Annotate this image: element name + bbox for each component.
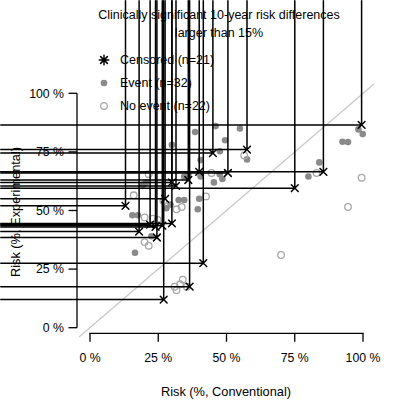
point-event [305,173,312,180]
point-no-event [345,204,352,211]
y-tick-label: 25 % [36,262,64,276]
point-censored [1,1,167,303]
x-tick-label: 75 % [281,351,309,365]
figure: 0 %25 %50 %75 %100 %0 %25 %50 %75 %100 %… [0,0,398,416]
y-tick-label: 0 % [43,321,64,335]
point-event [195,206,202,213]
point-event [135,212,142,219]
x-tick-label: 0 % [79,351,100,365]
point-event [345,139,352,146]
y-tick-label: 100 % [29,87,64,101]
y-axis-title: Risk (%, Experimental) [8,112,24,312]
point-no-event [141,214,148,221]
point-event [359,131,366,138]
chart-title-line1: Clinically significant 10-year risk diff… [40,7,398,25]
point-event [237,125,244,132]
scatter-plot: 0 %25 %50 %75 %100 %0 %25 %50 %75 %100 % [0,0,398,416]
point-no-event [278,252,285,259]
point-event [211,179,218,186]
x-axis-title: Risk (%, Conventional) [54,384,398,399]
x-tick-label: 100 % [346,351,381,365]
point-event [316,159,323,166]
x-tick-label: 50 % [212,351,240,365]
point-event [192,129,199,136]
point-no-event [130,192,137,199]
x-tick-label: 25 % [144,351,172,365]
point-event [196,196,203,203]
point-event [132,249,139,256]
chart-title-line2: larger than 15% [40,25,398,43]
chart-title: Clinically significant 10-year risk diff… [40,7,398,42]
y-tick-label: 75 % [36,145,64,159]
point-no-event [141,239,148,246]
point-event [181,197,188,204]
point-no-event [358,174,365,181]
point-no-event [313,170,320,177]
point-no-event [145,242,152,249]
